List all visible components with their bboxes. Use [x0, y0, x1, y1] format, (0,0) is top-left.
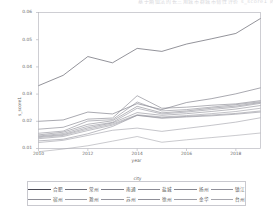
line-chart-svg	[0, 8, 273, 158]
legend-line-swatch	[138, 189, 161, 190]
x-tick-label: 2014	[132, 151, 143, 156]
legend-item[interactable]: 南通	[101, 185, 138, 194]
legend-item[interactable]: 盐城	[138, 185, 175, 194]
legend-item-label: 金华	[199, 196, 209, 202]
legend-item-label: 扬州	[199, 186, 209, 192]
header-title: 基于熵值法的长三角城市群城市韧性评价 s_score1 时序变化	[138, 0, 273, 4]
series-line	[39, 111, 261, 139]
legend-line-swatch	[65, 189, 88, 190]
legend-item-label: 台州	[235, 196, 245, 202]
y-tick-label: 0.06	[6, 10, 32, 14]
series-lines	[39, 18, 261, 151]
series-line	[39, 118, 261, 143]
series-line	[39, 103, 261, 135]
legend-item-label: 徐州	[162, 196, 172, 202]
series-line	[39, 108, 261, 137]
axes-frame	[39, 13, 261, 149]
y-tick-label: 0.02	[6, 119, 32, 123]
legend-item-label: 镇江	[235, 186, 245, 192]
y-tick-label: 0.03	[6, 92, 32, 96]
legend-item[interactable]: 金华	[174, 195, 211, 204]
legend-row-1: 合肥常州南通盐城扬州镇江	[28, 185, 247, 194]
legend-title: city	[28, 176, 247, 181]
y-tick-label: 0.05	[6, 38, 32, 42]
series-line	[39, 102, 261, 134]
chart-screenshot: 基于熵值法的长三角城市群城市韧性评价 s_score1 时序变化 s_score…	[0, 0, 273, 218]
legend-item[interactable]: 合肥	[28, 185, 65, 194]
legend-line-swatch	[211, 189, 234, 190]
x-tick-label: 2018	[230, 151, 241, 156]
y-tick-marks	[36, 13, 39, 149]
plot-area: s_score1 0.010.020.030.040.050.06 201020…	[0, 8, 273, 176]
legend-line-swatch	[174, 199, 197, 200]
legend-item[interactable]: 宿州	[28, 195, 65, 204]
series-line	[39, 18, 261, 85]
legend-line-swatch	[101, 189, 124, 190]
x-tick-label: 2016	[181, 151, 192, 156]
legend-item-label: 宿州	[53, 196, 63, 202]
legend-item[interactable]: 滁州	[65, 195, 102, 204]
legend-line-swatch	[65, 199, 88, 200]
legend-item-label: 南通	[126, 186, 136, 192]
legend-item[interactable]: 苏州	[101, 195, 138, 204]
legend-line-swatch	[28, 189, 51, 190]
legend-item[interactable]: 徐州	[138, 195, 175, 204]
legend-item-label: 盐城	[162, 186, 172, 192]
legend-item[interactable]: 台州	[211, 195, 248, 204]
legend-item-label: 滁州	[89, 196, 99, 202]
legend-item[interactable]: 镇江	[211, 185, 248, 194]
series-line	[39, 133, 261, 152]
y-tick-label: 0.04	[6, 65, 32, 69]
legend-item-label: 苏州	[126, 196, 136, 202]
legend-item[interactable]: 扬州	[174, 185, 211, 194]
page-header: 基于熵值法的长三角城市群城市韧性评价 s_score1 时序变化	[0, 0, 273, 7]
series-line	[39, 103, 261, 136]
legend-line-swatch	[138, 199, 161, 200]
x-axis-label: year	[0, 158, 273, 163]
x-tick-label: 2010	[33, 151, 44, 156]
legend-line-swatch	[28, 199, 51, 200]
legend-row-2: 宿州滁州苏州徐州金华台州	[28, 195, 247, 204]
legend-line-swatch	[101, 199, 124, 200]
x-tick-label: 2012	[82, 151, 93, 156]
legend-item[interactable]: 常州	[65, 185, 102, 194]
legend-line-swatch	[211, 199, 234, 200]
legend-item-label: 合肥	[53, 186, 63, 192]
legend-line-swatch	[174, 189, 197, 190]
series-line	[39, 106, 261, 137]
legend-item-label: 常州	[89, 186, 99, 192]
y-axis-ticks: 0.010.020.030.040.050.06	[4, 8, 32, 148]
legend: city 合肥常州南通盐城扬州镇江 宿州滁州苏州徐州金华台州	[27, 181, 246, 206]
